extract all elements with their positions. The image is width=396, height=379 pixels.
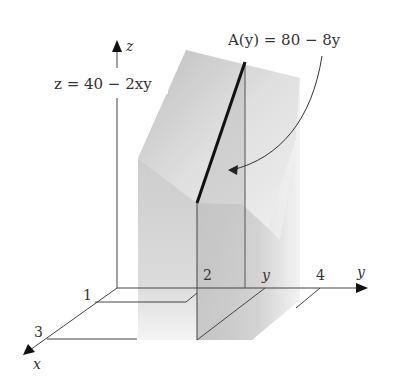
y-axis-label: y: [356, 264, 366, 280]
x-arrow-icon: [23, 344, 35, 355]
x-axis-label: x: [33, 356, 41, 372]
x-axis: [30, 288, 117, 350]
surface-equation: z = 40 − 2xy: [54, 75, 152, 93]
tick-x1: 1: [83, 287, 92, 303]
z-arrow-icon: [112, 40, 122, 52]
tick-x3: 3: [34, 324, 43, 340]
tick-y2: 2: [203, 267, 212, 283]
y-arrow-icon: [356, 283, 368, 293]
tick-y4: 4: [316, 267, 325, 283]
diagram-canvas: z y x 1 3 2 y 4 z = 40 − 2xy A(y) = 80 −…: [0, 0, 396, 379]
z-axis-label: z: [125, 38, 134, 54]
area-equation: A(y) = 80 − 8y: [227, 31, 341, 49]
tick-y-variable: y: [261, 267, 271, 283]
